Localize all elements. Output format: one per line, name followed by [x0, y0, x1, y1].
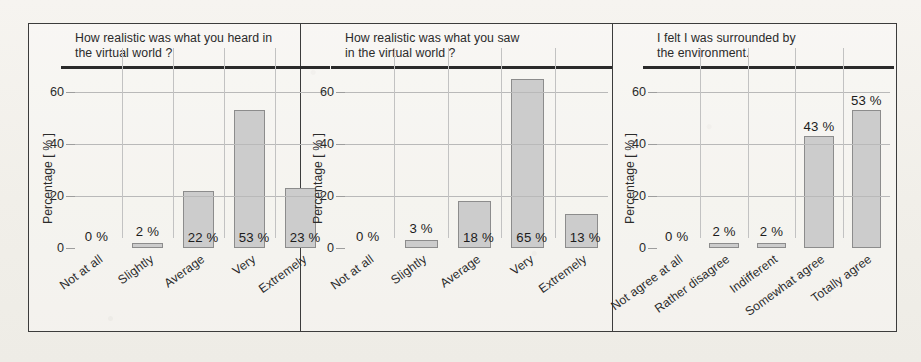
gridline-horizontal	[341, 196, 608, 197]
bar-slot: 0 %	[71, 66, 122, 248]
y-axis-tick-label: 0	[639, 241, 646, 255]
panel-title: How realistic was what you heard in the …	[75, 31, 325, 61]
bar: 65 %	[511, 79, 544, 248]
bar-slot: 53 %	[843, 66, 890, 248]
bar: 13 %	[565, 214, 598, 248]
bar: 53 %	[234, 110, 266, 248]
x-axis-tick-label: Very	[508, 252, 536, 278]
x-axis-label-slot: Extremely	[555, 248, 608, 338]
bar-slot: 22 %	[173, 66, 224, 248]
bar-value-label: 2 %	[136, 224, 159, 239]
x-axis-label-slot: Rather disagree	[700, 248, 747, 338]
bar-value-label: 13 %	[570, 230, 601, 245]
plot-area: 0 %2 %2 %43 %53 % Not agree at allRather…	[653, 66, 890, 248]
bar-slot: 2 %	[700, 66, 747, 248]
x-axis-tick-label: Not at all	[56, 252, 104, 292]
x-axis-baseline	[643, 66, 894, 69]
gridline-horizontal	[71, 196, 326, 197]
x-axis-labels: Not at allSlightlyAverageVeryExtremely	[71, 248, 326, 338]
x-axis-tick-label: Not at all	[328, 252, 376, 292]
x-axis-label-slot: Not at all	[71, 248, 122, 338]
y-axis-tick-mark	[648, 196, 657, 197]
bar-slot: 3 %	[394, 66, 447, 248]
survey-charts-figure: How realistic was what you heard in the …	[28, 23, 897, 332]
gridline-horizontal	[653, 196, 890, 197]
y-axis-tick-label: 40	[632, 137, 646, 151]
chart-panel-visual-realism: How realistic was what you saw in the vi…	[301, 24, 613, 331]
bar-value-label: 53 %	[851, 93, 882, 108]
bar-slot: 43 %	[795, 66, 842, 248]
y-axis-tick-label: 0	[57, 241, 64, 255]
gridline-horizontal	[653, 144, 890, 145]
x-axis-tick-label: Slightly	[388, 252, 429, 287]
bar-value-label: 22 %	[188, 230, 219, 245]
y-axis-tick-label: 0	[327, 241, 334, 255]
x-axis-labels: Not at allSlightlyAverageVeryExtremely	[341, 248, 608, 338]
gridline-horizontal	[341, 144, 608, 145]
x-axis-label-slot: Slightly	[394, 248, 447, 338]
bar-value-label: 2 %	[760, 224, 783, 239]
bar-value-label: 0 %	[85, 229, 108, 244]
bar-slot: 2 %	[122, 66, 173, 248]
gridline-vertical	[501, 48, 502, 238]
gridline-horizontal	[71, 144, 326, 145]
x-axis-baseline	[331, 66, 612, 69]
y-axis-tick-label: 60	[320, 85, 334, 99]
bar-slot: 65 %	[501, 66, 554, 248]
x-axis-labels: Not agree at allRather disagreeIndiffere…	[653, 248, 890, 338]
x-axis-label-slot: Totally agree	[843, 248, 890, 338]
bar-slot: 0 %	[653, 66, 700, 248]
y-axis-tick-label: 20	[50, 189, 64, 203]
bar-value-label: 2 %	[712, 224, 735, 239]
y-axis-tick-mark	[648, 248, 657, 249]
bar: 53 %	[852, 110, 881, 248]
bar	[405, 240, 438, 248]
gridline-horizontal	[653, 92, 890, 93]
x-axis-label-slot: Average	[173, 248, 224, 338]
gridline-vertical	[795, 48, 796, 238]
gridline-vertical	[448, 48, 449, 238]
y-axis-tick-mark	[648, 144, 657, 145]
gridline-vertical	[173, 48, 174, 238]
bar-slot: 2 %	[748, 66, 795, 248]
bar-group: 0 %2 %2 %43 %53 %	[653, 66, 890, 248]
bar-value-label: 43 %	[803, 119, 834, 134]
y-axis-tick-label: 20	[632, 189, 646, 203]
bar-group: 0 %3 %18 %65 %13 %	[341, 66, 608, 248]
gridline-vertical	[122, 48, 123, 238]
bar-value-label: 53 %	[239, 230, 270, 245]
bar-value-label: 3 %	[409, 221, 432, 236]
bar-value-label: 65 %	[516, 230, 547, 245]
gridline-vertical	[275, 48, 276, 238]
chart-panel-audio-realism: How realistic was what you heard in the …	[29, 24, 301, 331]
x-axis-label-slot: Average	[448, 248, 501, 338]
gridline-vertical	[224, 48, 225, 238]
y-axis-tick-mark	[66, 92, 75, 93]
bar-slot: 13 %	[555, 66, 608, 248]
y-axis-tick-mark	[66, 196, 75, 197]
plot-area: 0 %2 %22 %53 %23 % Not at allSlightlyAve…	[71, 66, 326, 248]
bar-group: 0 %2 %22 %53 %23 %	[71, 66, 326, 248]
x-axis-tick-label: Very	[229, 252, 257, 278]
y-axis-tick-mark	[336, 92, 345, 93]
y-axis-tick-label: 60	[632, 85, 646, 99]
y-axis-tick-mark	[66, 248, 75, 249]
y-axis-tick-mark	[336, 248, 345, 249]
bar-value-label: 0 %	[356, 229, 379, 244]
gridline-vertical	[555, 48, 556, 238]
bar-slot: 53 %	[224, 66, 275, 248]
bar: 22 %	[183, 191, 215, 248]
y-axis-tick-mark	[336, 144, 345, 145]
y-axis-tick-label: 60	[50, 85, 64, 99]
plot-area: 0 %3 %18 %65 %13 % Not at allSlightlyAve…	[341, 66, 608, 248]
bar: 43 %	[804, 136, 833, 248]
x-axis-label-slot: Not at all	[341, 248, 394, 338]
y-axis-tick-label: 20	[320, 189, 334, 203]
gridline-horizontal	[341, 92, 608, 93]
y-axis-tick-mark	[336, 196, 345, 197]
y-axis-tick-label: 40	[50, 137, 64, 151]
bar-value-label: 0 %	[665, 229, 688, 244]
bar: 18 %	[458, 201, 491, 248]
gridline-vertical	[700, 48, 701, 238]
bar-slot: 18 %	[448, 66, 501, 248]
